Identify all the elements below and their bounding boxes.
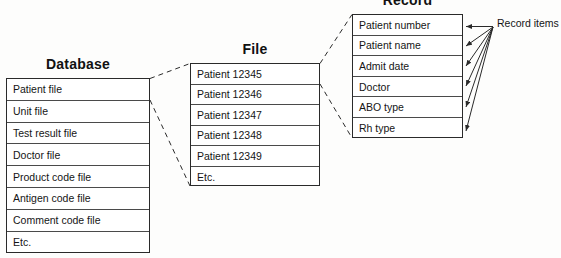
database-row: Test result file — [7, 123, 149, 145]
file-row: Patient 12346 — [191, 85, 319, 106]
database-row: Antigen code file — [7, 188, 149, 210]
file-title: File — [190, 41, 320, 57]
database-row: Etc. — [7, 232, 149, 254]
record-row: Rh type — [353, 118, 462, 139]
file-row: Patient 12345 — [191, 64, 319, 85]
record-row: ABO type — [353, 97, 462, 118]
record-row: Patient name — [353, 36, 462, 57]
record-items-arrow-fan — [466, 27, 493, 132]
file-row: Patient 12347 — [191, 105, 319, 126]
file-row: Patient 12348 — [191, 126, 319, 147]
record-items-arrow-5 — [466, 27, 493, 107]
file-table: Patient 12345 Patient 12346 Patient 1234… — [190, 63, 320, 186]
record-items-arrow-6 — [466, 27, 493, 131]
record-items-arrow-4 — [466, 27, 493, 86]
database-row: Patient file — [7, 79, 149, 101]
record-table: Patient number Patient name Admit date D… — [352, 14, 463, 138]
database-row: Product code file — [7, 166, 149, 188]
record-row: Patient number — [353, 15, 462, 36]
record-items-annotation-label: Record items — [497, 17, 559, 29]
database-table: Patient file Unit file Test result file … — [6, 78, 150, 253]
expansion-connector-file-to-record — [320, 15, 352, 139]
file-row: Etc. — [191, 167, 319, 188]
record-row: Admit date — [353, 56, 462, 77]
file-row: Patient 12349 — [191, 146, 319, 167]
database-row: Unit file — [7, 101, 149, 123]
database-row: Comment code file — [7, 210, 149, 232]
database-row: Doctor file — [7, 144, 149, 166]
record-items-arrow-2 — [466, 27, 493, 46]
record-row: Doctor — [353, 77, 462, 98]
record-items-arrow-3 — [466, 27, 493, 66]
record-title: Record — [352, 0, 463, 8]
database-title: Database — [6, 56, 150, 72]
data-structure-diagram: Database Patient file Unit file Test res… — [0, 0, 561, 258]
expansion-connector-database-to-file — [150, 64, 190, 187]
